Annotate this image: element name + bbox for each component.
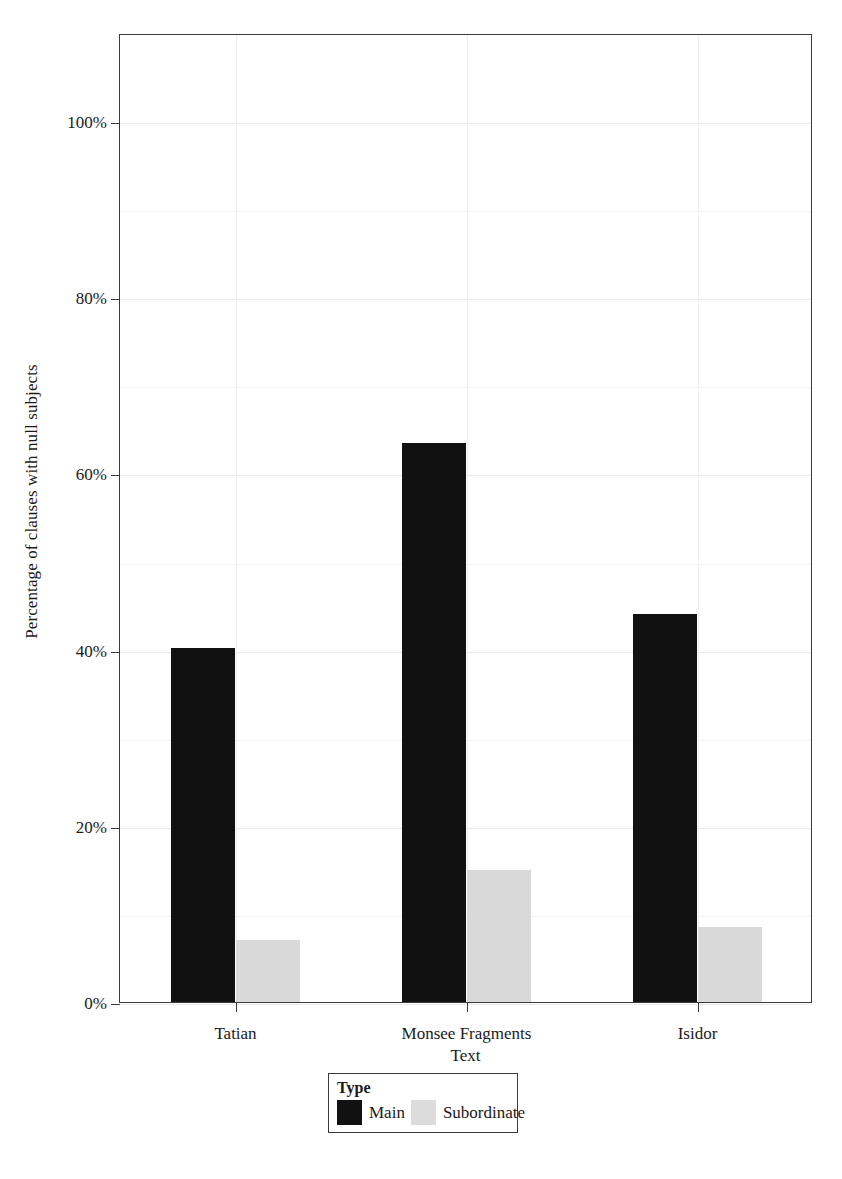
x-tick-label-isidor: Isidor [678, 1024, 718, 1044]
y-tick-label-80: 80% [76, 289, 107, 309]
legend-entry-main[interactable]: Main [337, 1100, 405, 1125]
plot-inner: 0%20%40%60%80%100% TatianMonsee Fragment… [120, 35, 811, 1002]
x-tick-label-monsee-fragments: Monsee Fragments [402, 1024, 532, 1044]
bar-tatian-main [171, 648, 235, 1002]
gridline-minor-y-70 [120, 387, 811, 388]
legend-items: MainSubordinate [337, 1100, 509, 1125]
legend-label-main: Main [369, 1103, 405, 1123]
legend: Type MainSubordinate [328, 1073, 518, 1133]
y-tick-mark-60 [111, 475, 120, 476]
legend-swatch-main [337, 1100, 362, 1125]
x-tick-mark-0 [236, 1002, 237, 1012]
y-tick-label-0: 0% [84, 994, 107, 1014]
y-tick-label-100: 100% [67, 113, 107, 133]
gridline-x-1 [467, 35, 468, 1002]
y-tick-label-40: 40% [76, 642, 107, 662]
bar-monsee-fragments-subordinate [467, 870, 531, 1002]
y-tick-label-20: 20% [76, 818, 107, 838]
bar-isidor-subordinate [698, 927, 762, 1002]
gridline-x-0 [236, 35, 237, 1002]
gridline-minor-y-90 [120, 211, 811, 212]
x-tick-label-tatian: Tatian [214, 1024, 256, 1044]
x-tick-mark-2 [698, 1002, 699, 1012]
x-tick-mark-1 [467, 1002, 468, 1012]
y-tick-mark-0 [111, 1004, 120, 1005]
y-tick-mark-20 [111, 828, 120, 829]
bar-isidor-main [633, 614, 697, 1002]
bar-chart-figure: Percentage of clauses with null subjects… [0, 0, 842, 1179]
y-tick-mark-40 [111, 652, 120, 653]
legend-swatch-subordinate [411, 1100, 436, 1125]
plot-area: 0%20%40%60%80%100% TatianMonsee Fragment… [119, 34, 812, 1003]
bar-monsee-fragments-main [402, 443, 466, 1002]
bar-tatian-subordinate [236, 940, 300, 1002]
gridline-y-0 [120, 1004, 811, 1005]
legend-label-subordinate: Subordinate [443, 1103, 525, 1123]
gridline-y-100 [120, 123, 811, 124]
y-axis-title: Percentage of clauses with null subjects [14, 0, 50, 1003]
legend-title: Type [337, 1079, 509, 1097]
gridline-y-80 [120, 299, 811, 300]
x-axis-title: Text [119, 1046, 812, 1066]
y-tick-label-60: 60% [76, 465, 107, 485]
gridline-x-2 [698, 35, 699, 1002]
y-tick-mark-80 [111, 299, 120, 300]
legend-entry-subordinate[interactable]: Subordinate [411, 1100, 525, 1125]
y-tick-mark-100 [111, 123, 120, 124]
